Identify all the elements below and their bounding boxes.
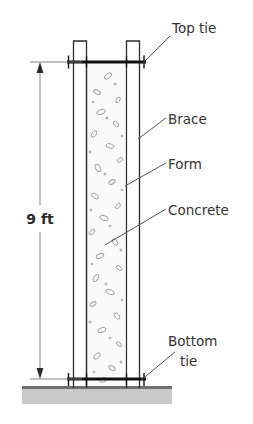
callout-brace: Brace xyxy=(168,111,207,127)
callout-concrete: Concrete xyxy=(168,202,229,218)
callout-form: Form xyxy=(168,156,202,172)
callout-bottom-tie-line2: tie xyxy=(180,353,197,369)
diagram-canvas: 9 ft Top tie Brace Form Concrete Bottom … xyxy=(0,0,253,424)
concrete-core xyxy=(87,62,126,386)
leader-bottom-tie xyxy=(140,352,175,381)
formwork-diagram: 9 ft Top tie Brace Form Concrete Bottom … xyxy=(0,0,253,424)
callout-bottom-tie-line1: Bottom xyxy=(168,333,218,349)
dimension-label: 9 ft xyxy=(26,211,54,227)
ground-slab xyxy=(22,386,172,404)
leader-brace xyxy=(138,118,166,139)
leader-top-tie xyxy=(142,36,170,64)
callout-top-tie: Top tie xyxy=(171,20,216,36)
leader-form xyxy=(125,163,166,186)
